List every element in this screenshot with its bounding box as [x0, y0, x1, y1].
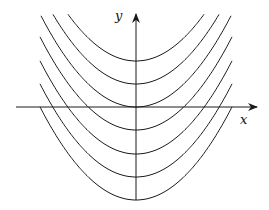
y-axis-label: y: [115, 8, 122, 23]
x-axis-label: x: [240, 112, 247, 127]
parabola-family-plot: [0, 0, 269, 210]
